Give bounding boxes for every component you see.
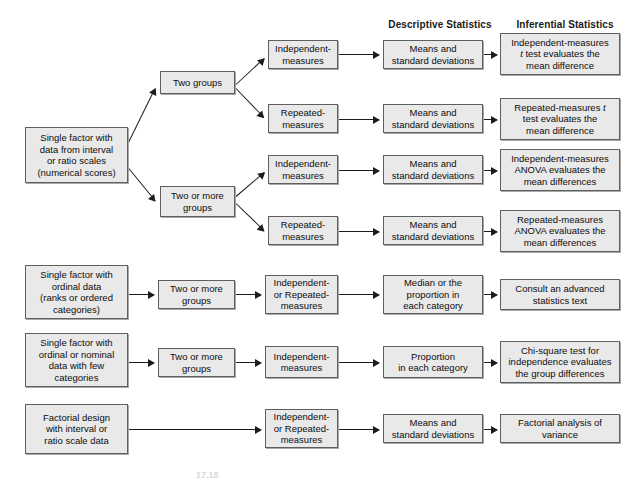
flow-node-label: Factorial designwith interval orratio sc… <box>43 412 110 447</box>
flow-node-label-line: standard deviations <box>392 170 474 182</box>
flow-node-label-line: Means and <box>392 417 474 429</box>
flow-node-label-line: Single factor with <box>40 269 113 281</box>
flow-node-label: Means andstandard deviations <box>392 219 474 242</box>
flow-node-r5-descriptive: Median or theproportion ineach category <box>383 275 483 314</box>
flow-node-label-line: Factorial analysis of <box>518 417 602 429</box>
column-header: Descriptive Statistics <box>375 19 505 30</box>
flow-node-start-factorial: Factorial designwith interval orratio sc… <box>25 404 128 454</box>
flow-node-label: Median or theproportion ineach category <box>403 277 463 312</box>
flow-node-two-or-more-groups-a: Two or moregroups <box>160 186 235 217</box>
flow-node-label-line: data with few <box>39 360 115 372</box>
flow-node-label-line: Two or more <box>170 351 223 363</box>
flow-node-label: Independent-or Repeated-measures <box>274 277 330 312</box>
flow-node-label: Proportionin each category <box>398 351 468 374</box>
flow-arrow <box>236 362 261 363</box>
flow-node-r4-inferential: Repeated-measuresANOVA evaluates themean… <box>500 210 620 252</box>
flow-node-label-line: Factorial design <box>43 412 110 424</box>
flow-node-label: Single factor withdata from intervalor r… <box>37 132 115 178</box>
flow-arrow <box>484 429 497 430</box>
flow-node-label: Repeated-measures ttest evaluates themea… <box>514 102 605 137</box>
flow-node-r2-inferential: Repeated-measures ttest evaluates themea… <box>500 98 620 140</box>
flow-node-label-line: ANOVA evaluates the <box>511 164 609 176</box>
flow-node-label-line: Independent- <box>275 43 331 55</box>
flow-node-label-line: Two or more <box>170 283 223 295</box>
flow-node-label-line: mean difference <box>514 125 605 137</box>
flow-node-label: Chi-square test forindependence evaluate… <box>508 345 611 380</box>
flow-arrow <box>236 203 265 231</box>
flow-node-label: Repeated-measures <box>281 107 325 130</box>
flow-arrow <box>236 172 265 197</box>
flow-node-r7-descriptive: Means andstandard deviations <box>383 414 483 443</box>
flow-arrow <box>484 54 497 55</box>
flow-node-label-line: measures <box>275 55 331 67</box>
flow-arrow <box>484 170 497 171</box>
flow-node-r3-inferential: Independent-measuresANOVA evaluates them… <box>500 149 620 191</box>
flow-node-label-line: standard deviations <box>392 231 474 243</box>
flow-node-label: Means andstandard deviations <box>392 158 474 181</box>
flow-arrow <box>129 362 154 363</box>
flow-node-label-line: measures <box>281 119 325 131</box>
flow-node-label: Two or moregroups <box>171 190 224 213</box>
flow-node-label-line: categories <box>39 372 115 384</box>
flow-node-label-line: mean differences <box>514 237 605 249</box>
flow-node-label-line: Repeated-measures <box>514 214 605 226</box>
flow-node-label-line: Proportion <box>398 351 468 363</box>
flow-node-label-line: measures <box>274 434 330 446</box>
flow-node-label-line: standard deviations <box>392 429 474 441</box>
figure-caption: 17.18 <box>196 470 219 480</box>
flow-node-two-or-more-groups-c: Two or moregroups <box>158 348 235 377</box>
flow-node-r1-inferential: Independent-measurest test evaluates the… <box>500 33 620 75</box>
flow-arrow <box>339 429 379 430</box>
flow-arrow <box>128 167 156 201</box>
flow-node-label: Two groups <box>173 77 222 89</box>
flow-arrow <box>128 88 156 143</box>
flow-node-label: Single factor withordinal data(ranks or … <box>40 269 113 315</box>
flow-node-label-line: Means and <box>392 219 474 231</box>
flow-node-label-line: data from interval <box>37 144 115 156</box>
flow-arrow <box>339 119 379 120</box>
flow-arrow <box>484 294 497 295</box>
flow-node-label-line: the group differences <box>508 368 611 380</box>
flow-node-label-line: Repeated- <box>281 107 325 119</box>
flow-node-label-line: Consult an advanced <box>515 283 604 295</box>
flow-arrow <box>129 294 154 295</box>
flow-arrow <box>236 58 265 85</box>
flow-node-label-line: independence evaluates <box>508 356 611 368</box>
flow-node-label: Means andstandard deviations <box>392 107 474 130</box>
flow-node-label-line: ANOVA evaluates the <box>514 225 605 237</box>
flow-node-label: Repeated-measures <box>281 219 325 242</box>
flow-node-label-line: Independent- <box>275 158 331 170</box>
flow-node-label-line: statistics text <box>515 295 604 307</box>
flow-node-label-line: each category <box>403 300 463 312</box>
flow-node-r2-means: Means andstandard deviations <box>383 104 483 133</box>
flow-node-r5-ind-or-rep: Independent-or Repeated-measures <box>265 275 338 314</box>
flow-arrow <box>339 294 379 295</box>
flow-node-label-line: Independent-measures <box>511 37 609 49</box>
flow-node-label-line: Chi-square test for <box>508 345 611 357</box>
flow-node-label-line: groups <box>171 202 224 214</box>
flow-node-label-line: Repeated- <box>281 219 325 231</box>
flow-node-r1-independent: Independent-measures <box>268 40 338 69</box>
flow-node-r6-descriptive: Proportionin each category <box>383 346 483 378</box>
flow-node-label-line: Independent-measures <box>511 153 609 165</box>
flow-node-label-line: standard deviations <box>392 55 474 67</box>
flow-node-label-line: or ratio scales <box>37 155 115 167</box>
flow-node-label-line: Independent- <box>274 277 330 289</box>
flow-arrow <box>484 119 497 120</box>
flow-node-r1-means: Means andstandard deviations <box>383 40 483 69</box>
flow-node-label: Two or moregroups <box>170 283 223 306</box>
flow-node-two-groups: Two groups <box>160 71 235 94</box>
flow-node-label: Independent-measuresANOVA evaluates them… <box>511 153 609 188</box>
flow-node-label-line: categories) <box>40 304 113 316</box>
flow-node-label: Factorial analysis ofvariance <box>518 417 602 440</box>
flow-node-r3-independent: Independent-measures <box>268 155 338 184</box>
column-header: Inferential Statistics <box>495 19 635 30</box>
flow-node-label: Independent-measures <box>275 43 331 66</box>
flow-arrow <box>339 170 379 171</box>
flow-node-r4-repeated: Repeated-measures <box>268 216 338 245</box>
flow-node-start-nominal: Single factor withordinal or nominaldata… <box>25 333 128 387</box>
flow-node-label-line: mean differences <box>511 176 609 188</box>
flow-node-label-line: Two groups <box>173 77 222 89</box>
flow-arrow <box>339 362 379 363</box>
flow-node-label-line: groups <box>170 363 223 375</box>
